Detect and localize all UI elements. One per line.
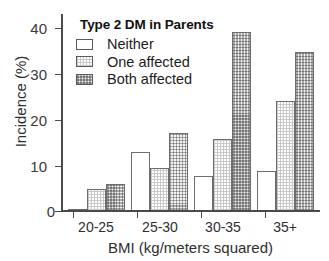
- bar-one-30-35: [213, 139, 232, 212]
- legend-item-one-affected: One affected: [76, 54, 266, 71]
- bar-neither-35plus: [257, 171, 276, 211]
- x-tick-label-35plus: 35+: [250, 220, 320, 234]
- y-tick-label-10: 10: [7, 159, 47, 174]
- legend-label-both-affected: Both affected: [107, 71, 192, 88]
- y-tick-40: [55, 28, 61, 29]
- legend: Type 2 DM in Parents Neither One affecte…: [76, 18, 266, 89]
- legend-item-both-affected: Both affected: [76, 71, 266, 88]
- y-tick-30: [55, 74, 61, 75]
- bar-both-25-30: [169, 133, 188, 211]
- legend-label-one-affected: One affected: [107, 54, 190, 71]
- bar-neither-25-30: [131, 152, 150, 211]
- x-tick-3: [265, 212, 266, 218]
- x-tick-label-30-35: 30-35: [188, 220, 258, 234]
- legend-item-neither: Neither: [76, 36, 266, 53]
- legend-label-neither: Neither: [107, 36, 154, 53]
- y-tick-label-0: 0: [15, 204, 55, 219]
- y-tick-10: [55, 166, 61, 167]
- y-tick-label-20: 20: [7, 113, 47, 128]
- x-tick-1: [137, 212, 138, 218]
- bar-both-35plus: [295, 52, 314, 211]
- legend-swatch-both-affected: [76, 74, 93, 85]
- bar-neither-30-35: [194, 176, 213, 211]
- legend-title: Type 2 DM in Parents: [80, 18, 266, 33]
- chart-figure: Incidence (%) 0 10 20 30 40 20-25 25-30 …: [0, 0, 329, 261]
- x-axis-title: BMI (kg/meters squared): [61, 240, 320, 255]
- x-tick-0: [73, 212, 74, 218]
- legend-swatch-one-affected: [76, 56, 93, 67]
- legend-swatch-neither: [76, 39, 93, 50]
- x-axis-line: [61, 210, 320, 212]
- y-tick-label-30: 30: [7, 67, 47, 82]
- x-tick-label-25-30: 25-30: [125, 220, 195, 234]
- y-tick-label-40: 40: [7, 21, 47, 36]
- y-axis-title: Incidence (%): [13, 32, 28, 172]
- bar-one-25-30: [150, 168, 169, 211]
- bar-one-20-25: [87, 189, 106, 211]
- x-tick-2: [201, 212, 202, 218]
- bar-both-20-25: [106, 184, 125, 211]
- x-tick-label-20-25: 20-25: [61, 220, 131, 234]
- y-tick-20: [55, 120, 61, 121]
- bar-one-35plus: [276, 101, 295, 211]
